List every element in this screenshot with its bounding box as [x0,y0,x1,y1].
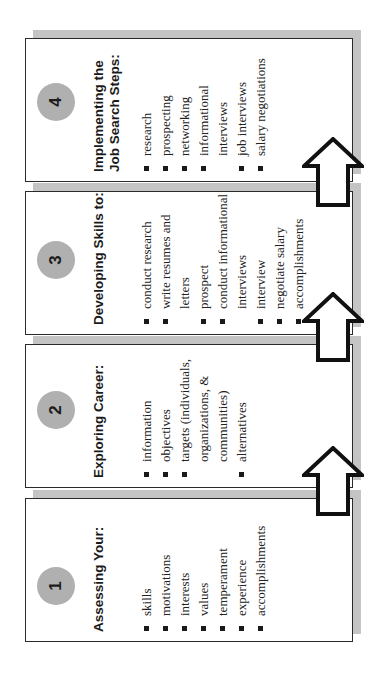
square-bullet-icon [258,166,263,171]
list-item: temperament [213,503,232,632]
list-item: networking [175,43,194,172]
square-bullet-icon [144,166,149,171]
step-item-list: skills motivations interests values temp… [137,503,270,632]
step-item-list: research prospecting networking informat… [137,43,270,172]
step-item-list: information objectives targets (individu… [137,349,251,478]
list-item: interview [251,196,270,325]
list-item: accomplishments [251,503,270,632]
step-number-badge: 3 [37,241,75,279]
square-bullet-icon [163,472,168,477]
list-item: write resumes andletters [156,196,194,325]
step-heading: Implementing the Job Search Steps: [91,43,123,172]
square-bullet-icon [163,319,168,324]
list-item: job interviews [232,43,251,172]
step-item-list: conduct research write resumes andletter… [137,196,308,325]
square-bullet-icon [144,319,149,324]
next-step-arrow-icon [302,292,364,362]
step-number-badge: 2 [37,391,75,429]
list-item: values [194,503,213,632]
heading-line: Exploring Career: [91,349,107,478]
square-bullet-icon [220,626,225,631]
next-step-arrow-icon [302,446,364,516]
step-heading: Developing Skills to: [91,196,107,325]
square-bullet-icon [258,626,263,631]
list-item: research [137,43,156,172]
list-item: informationalinterviews [194,43,232,172]
list-item: experience [232,503,251,632]
step-heading: Exploring Career: [91,349,107,478]
square-bullet-icon [163,626,168,631]
square-bullet-icon [144,626,149,631]
square-bullet-icon [258,319,263,324]
step-heading: Assessing Your: [91,503,107,632]
square-bullet-icon [182,626,187,631]
square-bullet-icon [239,626,244,631]
square-bullet-icon [163,166,168,171]
square-bullet-icon [182,472,187,477]
list-item: negotiate salary [270,196,289,325]
list-item: conduct research [137,196,156,325]
list-item: prospecting [156,43,175,172]
step-number-badge: 1 [37,567,75,605]
square-bullet-icon [277,319,282,324]
list-item: skills [137,503,156,632]
list-item: information [137,349,156,478]
square-bullet-icon [201,319,206,324]
square-bullet-icon [220,319,225,324]
square-bullet-icon [296,319,301,324]
square-bullet-icon [201,166,206,171]
career-process-diagram: 1 Assessing Your: skills motivations int… [0,0,384,677]
heading-line: Implementing the [91,43,107,172]
list-item: interests [175,503,194,632]
heading-line: Job Search Steps: [107,43,123,172]
square-bullet-icon [144,472,149,477]
square-bullet-icon [182,166,187,171]
list-item: objectives [156,349,175,478]
list-item: conduct informationalinterviews [213,196,251,325]
square-bullet-icon [239,166,244,171]
list-item: motivations [156,503,175,632]
list-item: targets (individuals,organizations, &com… [175,349,232,478]
list-item: prospect [194,196,213,325]
next-step-arrow-icon [302,137,364,207]
heading-line: Assessing Your: [91,503,107,632]
step-number-badge: 4 [37,83,75,121]
square-bullet-icon [201,626,206,631]
step-box-1: 1 Assessing Your: skills motivations int… [25,498,353,642]
list-item: alternatives [232,349,251,478]
list-item: salary negotiations [251,43,270,172]
heading-line: Developing Skills to: [91,196,107,325]
square-bullet-icon [239,472,244,477]
